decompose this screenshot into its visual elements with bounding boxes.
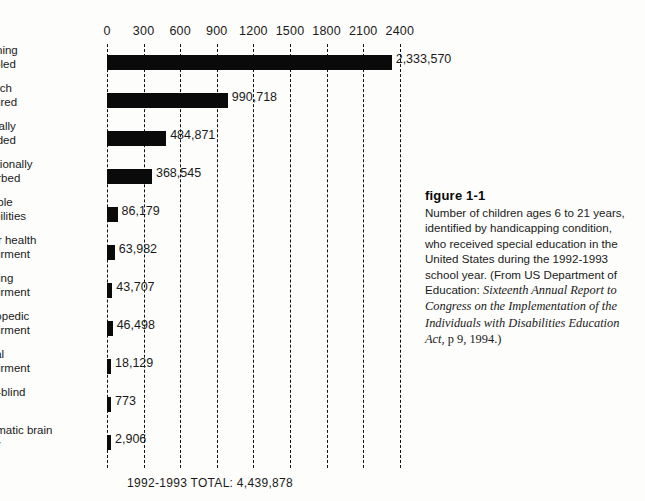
caption-body-end: p 9, 1994.) <box>445 332 502 346</box>
bar <box>107 169 152 184</box>
bar-category-label-line2: disabled <box>0 58 68 72</box>
bar-row: Speechimpaired990,718 <box>0 82 420 120</box>
x-axis-tick-1500: 1500 <box>276 24 305 38</box>
chart-total-label: 1992-1993 TOTAL: 4,439,878 <box>0 476 420 490</box>
bar <box>107 245 115 260</box>
bar-category-label-line1: Learning <box>0 44 68 58</box>
figure-number: figure 1-1 <box>425 188 633 203</box>
bar-category-label-line2: impaired <box>0 96 68 110</box>
x-axis-tick-0: 0 <box>103 24 110 38</box>
bar-row: Learningdisabled2,333,570 <box>0 44 420 82</box>
bar <box>107 93 228 108</box>
bar-category-label: Visualimpairment <box>0 348 68 375</box>
bar-row: Multipledisabilities86,179 <box>0 196 420 234</box>
bar-value-label: 63,982 <box>119 242 157 256</box>
bar <box>107 55 392 70</box>
bar <box>107 207 118 222</box>
x-axis-tick-labels: 030060090012001500180021002400 <box>0 24 420 42</box>
bar-category-label-line1: Speech <box>0 82 68 96</box>
chart-bars: Learningdisabled2,333,570Speechimpaired9… <box>0 44 420 468</box>
bar-category-label: Hearingimpairment <box>0 272 68 299</box>
bar-row: Visualimpairment18,129 <box>0 348 420 386</box>
bar-value-label: 86,179 <box>122 204 160 218</box>
bar-category-label: Deaf-blind <box>0 386 68 400</box>
bar-value-label: 368,545 <box>156 166 201 180</box>
figure-caption-text: Number of children ages 6 to 21 years, i… <box>425 205 633 348</box>
bar-category-label-line1: Hearing <box>0 272 68 286</box>
x-axis-tick-1200: 1200 <box>239 24 268 38</box>
bar-category-label: Traumatic braininjury <box>0 424 68 451</box>
bar-value-label: 990,718 <box>232 90 277 104</box>
bar-row: Hearingimpairment43,707 <box>0 272 420 310</box>
x-axis-tick-2100: 2100 <box>349 24 378 38</box>
bar-value-label: 43,707 <box>116 280 154 294</box>
bar-row: Traumatic braininjury2,906 <box>0 424 420 462</box>
bar-category-label: Learningdisabled <box>0 44 68 71</box>
bar-category-label: Orthopedicimpairment <box>0 310 68 337</box>
bar-chart: 030060090012001500180021002400 Learningd… <box>0 0 420 501</box>
bar-category-label-line1: Deaf-blind <box>0 386 68 400</box>
bar-category-label-line1: Mentally <box>0 120 68 134</box>
bar-category-label-line2: impairment <box>0 286 68 300</box>
bar-category-label: Other healthimpairment <box>0 234 68 261</box>
bar <box>107 397 111 412</box>
bar-row: Emotionallydisturbed368,545 <box>0 158 420 196</box>
x-axis-tick-300: 300 <box>133 24 154 38</box>
bar-category-label-line2: impairment <box>0 324 68 338</box>
bar-category-label: Speechimpaired <box>0 82 68 109</box>
bar-value-label: 773 <box>115 394 136 408</box>
bar-row: Deaf-blind773 <box>0 386 420 424</box>
bar-category-label-line2: impairment <box>0 248 68 262</box>
figure-caption: figure 1-1 Number of children ages 6 to … <box>425 188 633 348</box>
bar-row: Other healthimpairment63,982 <box>0 234 420 272</box>
x-axis-tick-1800: 1800 <box>312 24 341 38</box>
bar <box>107 321 113 336</box>
bar-category-label-line1: Traumatic brain <box>0 424 68 438</box>
bar-value-label: 46,498 <box>117 318 155 332</box>
bar-value-label: 18,129 <box>115 356 153 370</box>
bar-category-label-line2: impairment <box>0 362 68 376</box>
bar-category-label-line1: Orthopedic <box>0 310 68 324</box>
x-axis-tick-900: 900 <box>206 24 227 38</box>
bar <box>107 131 166 146</box>
bar <box>107 359 111 374</box>
bar-category-label-line2: retarded <box>0 134 68 148</box>
bar-category-label-line1: Multiple <box>0 196 68 210</box>
bar-row: Orthopedicimpairment46,498 <box>0 310 420 348</box>
bar-category-label-line1: Visual <box>0 348 68 362</box>
bar-row: Mentallyretarded484,871 <box>0 120 420 158</box>
bar-category-label: Mentallyretarded <box>0 120 68 147</box>
x-axis-tick-2400: 2400 <box>385 24 414 38</box>
bar-category-label-line1: Emotionally <box>0 158 68 172</box>
bar-category-label-line2: injury <box>0 438 68 452</box>
bar-category-label-line2: disturbed <box>0 172 68 186</box>
bar-value-label: 484,871 <box>170 128 215 142</box>
bar <box>107 283 112 298</box>
bar <box>107 435 111 450</box>
x-axis-tick-600: 600 <box>169 24 190 38</box>
bar-category-label: Multipledisabilities <box>0 196 68 223</box>
bar-category-label-line2: disabilities <box>0 210 68 224</box>
bar-value-label: 2,333,570 <box>396 52 452 66</box>
bar-category-label-line1: Other health <box>0 234 68 248</box>
bar-value-label: 2,906 <box>115 432 146 446</box>
bar-category-label: Emotionallydisturbed <box>0 158 68 185</box>
figure-page: 030060090012001500180021002400 Learningd… <box>0 0 645 501</box>
